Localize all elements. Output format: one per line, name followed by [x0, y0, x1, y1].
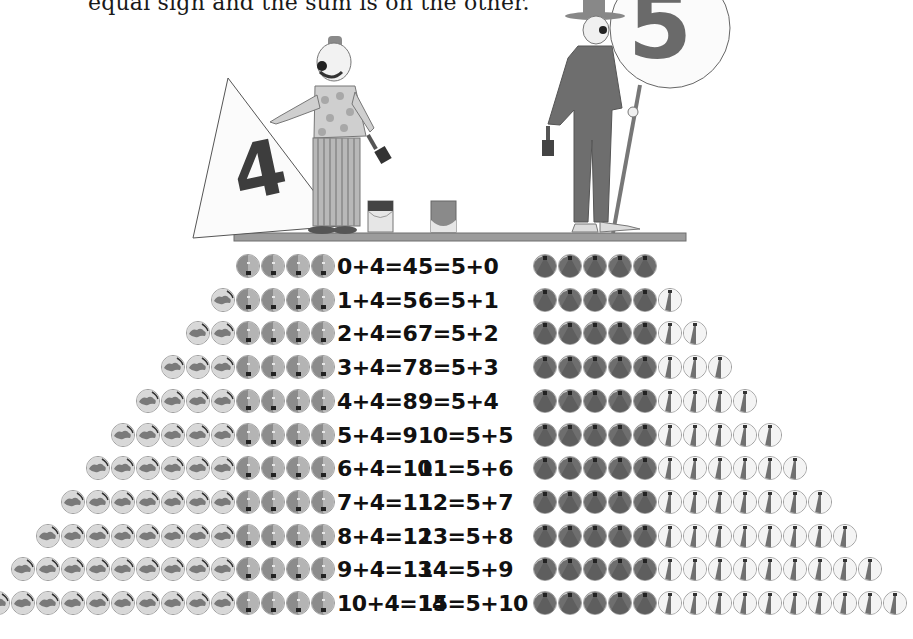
split-ball-icon: [286, 389, 310, 413]
dark-beach-ball-icon: [558, 557, 582, 581]
globe-ball-icon: [161, 524, 185, 548]
split-ball-icon: [261, 557, 285, 581]
striped-beach-ball-icon: [658, 591, 682, 615]
globe-ball-icon: [11, 557, 35, 581]
globe-ball-icon: [161, 423, 185, 447]
split-ball-icon: [261, 524, 285, 548]
striped-beach-ball-icon: [708, 524, 732, 548]
dark-beach-ball-icon: [583, 456, 607, 480]
right-equation: 5=5+0: [418, 252, 498, 282]
dark-beach-ball-icon: [533, 490, 557, 514]
right-ball-group: [533, 456, 807, 482]
split-ball-icon: [261, 389, 285, 413]
globe-ball-icon: [161, 456, 185, 480]
left-equation: 2+4=6: [337, 319, 417, 349]
split-ball-icon: [236, 591, 260, 615]
split-ball-icon: [286, 355, 310, 379]
split-ball-icon: [311, 423, 335, 447]
dark-beach-ball-icon: [583, 490, 607, 514]
left-ball-group: [61, 490, 335, 516]
dark-beach-ball-icon: [608, 524, 632, 548]
globe-ball-icon: [136, 389, 160, 413]
striped-beach-ball-icon: [708, 490, 732, 514]
split-ball-icon: [261, 490, 285, 514]
split-ball-icon: [236, 524, 260, 548]
striped-beach-ball-icon: [833, 591, 857, 615]
globe-ball-icon: [111, 456, 135, 480]
equation-row: 0+4=45=5+0: [0, 252, 913, 282]
striped-beach-ball-icon: [733, 524, 757, 548]
dark-beach-ball-icon: [583, 288, 607, 312]
striped-beach-ball-icon: [658, 288, 682, 312]
dark-beach-ball-icon: [608, 456, 632, 480]
split-ball-icon: [286, 254, 310, 278]
globe-ball-icon: [136, 423, 160, 447]
striped-beach-ball-icon: [808, 591, 832, 615]
split-ball-icon: [286, 423, 310, 447]
globe-ball-icon: [36, 557, 60, 581]
dark-beach-ball-icon: [583, 355, 607, 379]
striped-beach-ball-icon: [733, 557, 757, 581]
right-ball-group: [533, 490, 832, 516]
right-equation: 15=5+10: [418, 589, 528, 619]
dark-beach-ball-icon: [558, 456, 582, 480]
globe-ball-icon: [161, 389, 185, 413]
globe-ball-icon: [136, 490, 160, 514]
split-ball-icon: [261, 321, 285, 345]
globe-ball-icon: [136, 456, 160, 480]
left-ball-group: [111, 423, 335, 449]
globe-ball-icon: [61, 557, 85, 581]
striped-beach-ball-icon: [783, 524, 807, 548]
dark-beach-ball-icon: [533, 288, 557, 312]
right-ball-group: [533, 524, 857, 550]
right-ball-group: [533, 557, 882, 583]
globe-ball-icon: [136, 557, 160, 581]
globe-ball-icon: [161, 490, 185, 514]
split-ball-icon: [286, 321, 310, 345]
right-ball-group: [533, 389, 757, 415]
left-equation: 4+4=8: [337, 387, 417, 417]
globe-ball-icon: [211, 591, 235, 615]
globe-ball-icon: [161, 591, 185, 615]
striped-beach-ball-icon: [783, 456, 807, 480]
right-equation: 14=5+9: [418, 555, 513, 585]
globe-ball-icon: [111, 490, 135, 514]
striped-beach-ball-icon: [658, 456, 682, 480]
equation-row: 3+4=78=5+3: [0, 353, 913, 383]
split-ball-icon: [261, 288, 285, 312]
left-ball-group: [0, 591, 335, 617]
right-equation: 10=5+5: [418, 421, 513, 451]
dark-beach-ball-icon: [608, 254, 632, 278]
dark-beach-ball-icon: [633, 254, 657, 278]
split-ball-icon: [311, 288, 335, 312]
left-equation: 0+4=4: [337, 252, 417, 282]
left-ball-group: [36, 524, 335, 550]
striped-beach-ball-icon: [733, 591, 757, 615]
dark-beach-ball-icon: [583, 389, 607, 413]
striped-beach-ball-icon: [883, 591, 907, 615]
right-equation: 9=5+4: [418, 387, 498, 417]
dark-beach-ball-icon: [633, 389, 657, 413]
striped-beach-ball-icon: [658, 524, 682, 548]
dark-beach-ball-icon: [633, 557, 657, 581]
dark-beach-ball-icon: [608, 321, 632, 345]
split-ball-icon: [286, 490, 310, 514]
dark-beach-ball-icon: [583, 321, 607, 345]
striped-beach-ball-icon: [783, 490, 807, 514]
striped-beach-ball-icon: [708, 355, 732, 379]
striped-beach-ball-icon: [658, 557, 682, 581]
globe-ball-icon: [211, 490, 235, 514]
dark-beach-ball-icon: [583, 423, 607, 447]
paint-can-left: [368, 201, 393, 232]
striped-beach-ball-icon: [683, 557, 707, 581]
striped-beach-ball-icon: [683, 423, 707, 447]
right-ball-group: [533, 254, 657, 280]
left-ball-group: [86, 456, 335, 482]
dark-beach-ball-icon: [583, 557, 607, 581]
right-equation: 7=5+2: [418, 319, 498, 349]
striped-beach-ball-icon: [758, 557, 782, 581]
split-ball-icon: [311, 321, 335, 345]
dark-beach-ball-icon: [608, 591, 632, 615]
split-ball-icon: [311, 557, 335, 581]
globe-ball-icon: [61, 591, 85, 615]
